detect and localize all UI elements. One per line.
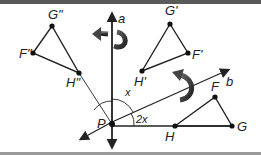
label-P: P: [97, 116, 106, 131]
label-G1: G': [165, 3, 178, 18]
curved-reflection-arrow-a-icon: [92, 27, 125, 47]
label-F: F: [211, 79, 220, 94]
angle-2x-label: 2x: [135, 113, 148, 125]
triangle-F1G1H1: [139, 21, 190, 73]
label-H: H: [165, 129, 175, 144]
triangle-F2G2H2: [30, 23, 81, 75]
label-G2: G": [48, 7, 64, 22]
arc-x: [112, 99, 133, 112]
curved-reflection-arrow-b-icon: [172, 69, 192, 100]
angle-x-label: x: [124, 86, 131, 98]
arc-2x-right: [131, 113, 134, 126]
label-H1: H': [134, 74, 146, 89]
label-b: b: [226, 74, 233, 89]
label-a: a: [118, 11, 125, 26]
label-F1: F': [192, 47, 203, 62]
segment-PH2: [79, 73, 112, 124]
label-H2: H": [66, 75, 81, 90]
reflection-diagram: a b x 2x P F G H F' G: [0, 0, 261, 155]
point-P: [109, 121, 115, 127]
arc-2x: [94, 101, 112, 110]
label-G: G: [237, 119, 247, 134]
diagram-canvas: a b x 2x P F G H F' G: [0, 0, 261, 155]
label-F2: F": [19, 46, 33, 61]
